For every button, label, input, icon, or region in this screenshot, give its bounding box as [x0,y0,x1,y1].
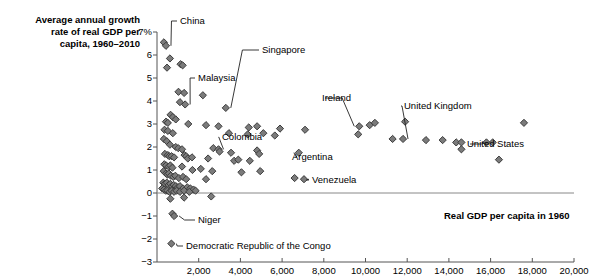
data-point [495,156,502,163]
data-point [439,137,446,144]
y-tick-label: 4 [120,95,152,106]
data-point [167,195,174,202]
data-point [301,126,308,133]
data-point [215,123,222,130]
data-point [257,168,264,175]
data-point [291,174,298,181]
x-tick-label: 20,000 [554,265,594,276]
data-point [245,124,252,131]
annotation-label-malaysia: Malaysia [198,72,236,83]
data-point [458,146,465,153]
data-point [356,123,363,130]
annotation-label-china: China [180,15,205,26]
data-point [208,193,215,200]
data-point [178,163,185,170]
annotation-label-ireland: Ireland [322,92,351,103]
data-point [399,135,406,142]
data-point [163,64,170,71]
data-point [520,119,527,126]
y-tick-label: 7% [120,26,152,37]
data-point [238,169,245,176]
x-tick-label: 12,000 [387,265,427,276]
data-point [166,55,173,62]
data-point [276,125,283,132]
y-tick-label: 0 [120,187,152,198]
x-tick-label: 2,000 [179,265,219,276]
x-tick-label: 8,000 [304,265,344,276]
data-point [246,157,253,164]
data-point [181,194,188,201]
data-point [199,92,206,99]
annotation-label-colombia: Colombia [222,131,262,142]
x-tick-label: 16,000 [471,265,511,276]
data-point [202,122,209,129]
x-tick-label: 18,000 [512,265,552,276]
annotation-leader-line [171,21,177,46]
data-point [168,240,175,247]
x-tick-label: 6,000 [262,265,302,276]
data-point [222,104,229,111]
y-tick-label: 5 [120,72,152,83]
data-point [202,176,209,183]
annotation-label-democratic-republic-of-the-congo: Democratic Republic of the Congo [186,240,331,251]
data-point [181,89,188,96]
y-tick-label: 3 [120,118,152,129]
data-point [253,123,260,130]
data-point [389,135,396,142]
annotation-label-singapore: Singapore [262,44,305,55]
annotation-leader-line [190,78,195,104]
y-tick-label: 2 [120,141,152,152]
annotation-label-united-kingdom: United Kingdom [404,100,472,111]
data-point [185,120,192,127]
x-tick-label: 14,000 [429,265,469,276]
data-point [422,137,429,144]
annotation-leader-line [179,216,195,220]
annotation-label-united-states: United States [467,138,524,149]
data-point [197,165,204,172]
data-point [227,149,234,156]
annotation-label-argentina: Argentina [292,151,333,162]
data-point [204,155,211,162]
data-point [355,131,362,138]
y-tick-label: 6 [120,49,152,60]
y-tick-label: −3 [120,256,152,267]
annotation-label-venezuela: Venezuela [312,174,356,185]
data-point [458,139,465,146]
y-tick-label: 1 [120,164,152,175]
data-point [189,166,196,173]
data-point [209,168,216,175]
data-point [271,132,278,139]
y-tick-label: −1 [120,210,152,221]
y-tick-label: −2 [120,233,152,244]
data-point [300,176,307,183]
annotation-leader-line [176,244,183,246]
chart-figure: Average annual growthrate of real GDP pe… [0,0,608,277]
x-tick-label: 10,000 [346,265,386,276]
annotation-label-niger: Niger [198,214,221,225]
x-tick-label: 4,000 [220,265,260,276]
